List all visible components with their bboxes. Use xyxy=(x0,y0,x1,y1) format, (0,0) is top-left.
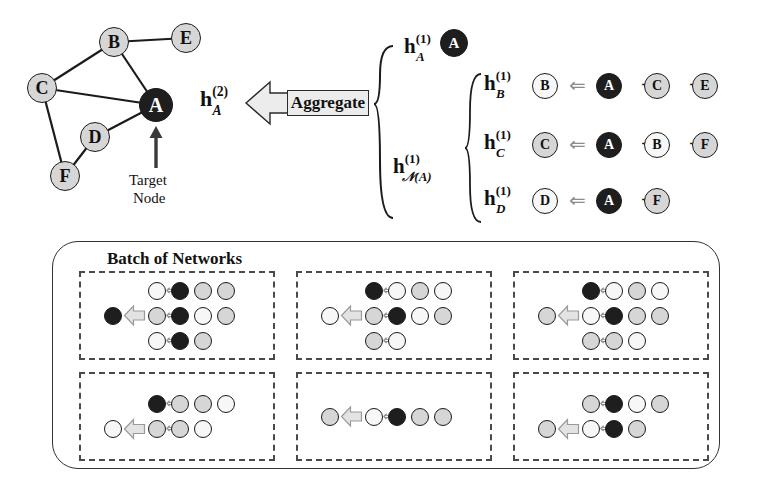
figure-canvas: ABCDEF Target Node h(2)A Aggregate h(1)A… xyxy=(0,0,771,489)
batch-cell-6-output-arrow xyxy=(0,0,771,489)
batch-output-arrow-shape xyxy=(559,420,579,439)
